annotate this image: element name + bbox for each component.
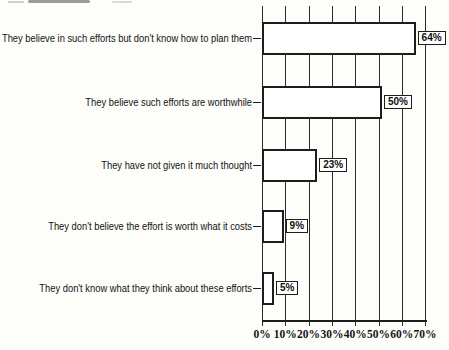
axis-tick: [379, 322, 380, 326]
category-tick: [253, 102, 261, 104]
axis-tick: [425, 322, 426, 326]
scan-artifact: [112, 1, 132, 3]
category-label: They don't know what they think about th…: [0, 282, 252, 295]
category-tick: [253, 288, 261, 290]
plot-area: 64%50%23%9%5%: [262, 6, 427, 322]
value-label: 9%: [286, 219, 308, 233]
category-label: They believe in such efforts but don't k…: [0, 32, 252, 45]
x-axis-tick-label: 10%: [274, 328, 297, 340]
axis-tick: [309, 322, 310, 326]
x-axis-tick-label: 40%: [344, 328, 367, 340]
category-label: They don't believe the effort is worth w…: [0, 220, 252, 233]
scan-artifact: [8, 1, 24, 3]
x-axis-tick-label: 70%: [414, 328, 437, 340]
bar-23%: [262, 149, 317, 182]
axis-tick: [355, 322, 356, 326]
axis-tick: [402, 322, 403, 326]
axis-tick: [285, 322, 286, 326]
x-axis-tick-label: 0%: [253, 328, 270, 340]
gridline-70%: [425, 6, 426, 322]
value-label: 50%: [384, 95, 412, 109]
axis-tick: [262, 322, 263, 326]
category-tick: [253, 38, 261, 40]
value-label: 23%: [319, 158, 347, 172]
bar-64%: [262, 22, 416, 55]
value-label: 5%: [276, 281, 298, 295]
category-label: They have not given it much thought: [0, 159, 252, 172]
category-tick: [253, 165, 261, 167]
bar-9%: [262, 210, 284, 243]
survey-bar-chart: 64%50%23%9%5% They believe in such effor…: [0, 0, 449, 350]
scan-artifact: [28, 0, 90, 3]
category-label: They believe such efforts are worthwhile: [0, 96, 252, 109]
axis-tick: [332, 322, 333, 326]
bar-5%: [262, 272, 274, 305]
x-axis-tick-label: 50%: [367, 328, 390, 340]
category-tick: [253, 226, 261, 228]
bar-50%: [262, 86, 382, 119]
value-label: 64%: [418, 31, 446, 45]
x-axis-tick-label: 60%: [390, 328, 413, 340]
x-axis-tick-label: 30%: [320, 328, 343, 340]
x-axis-tick-label: 20%: [297, 328, 320, 340]
